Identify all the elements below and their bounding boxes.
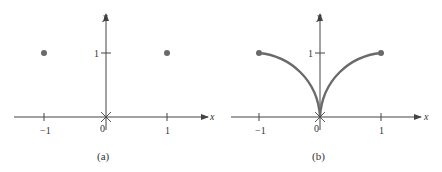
caption-b: (b) bbox=[312, 150, 325, 163]
x-tick-label: −1 bbox=[40, 125, 51, 136]
endpoint-neg1-1 bbox=[256, 50, 262, 56]
x-tick-label: 1 bbox=[165, 125, 170, 136]
caption-a: (a) bbox=[97, 150, 110, 163]
x-tick-label: 1 bbox=[379, 125, 384, 136]
point-1-1 bbox=[164, 50, 170, 56]
figure-canvas: −1 0 1 1 x y (a) −1 0 1 1 x y (b) bbox=[0, 0, 442, 172]
point-neg1-1 bbox=[41, 50, 47, 56]
y-axis-label: y bbox=[102, 11, 108, 22]
x-tick-label: 0 bbox=[314, 123, 319, 134]
x-tick-label: −1 bbox=[255, 125, 266, 136]
x-axis-label: x bbox=[423, 111, 429, 122]
y-tick-label: 1 bbox=[94, 48, 99, 59]
x-axis-label: x bbox=[209, 111, 215, 122]
panel-b: −1 0 1 1 x y (b) bbox=[231, 11, 429, 163]
panel-a: −1 0 1 1 x y (a) bbox=[14, 11, 215, 163]
y-tick-label: 1 bbox=[308, 48, 313, 59]
x-tick-label: 0 bbox=[100, 123, 105, 134]
y-axis-label: y bbox=[316, 11, 322, 22]
endpoint-1-1 bbox=[378, 50, 384, 56]
